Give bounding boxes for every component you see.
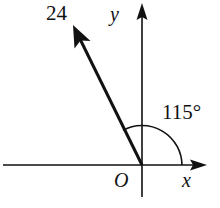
y-axis-label: y	[110, 4, 119, 24]
angle-label: 115°	[162, 102, 201, 123]
origin-label: O	[114, 170, 128, 190]
vector-angle-diagram: 24 115° O x y	[0, 0, 220, 208]
terminal-ray-line	[80, 39, 142, 165]
magnitude-label: 24	[46, 3, 67, 24]
x-axis-label: x	[182, 170, 191, 190]
